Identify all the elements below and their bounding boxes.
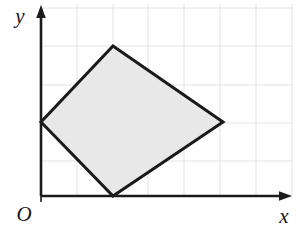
y-axis-label: y	[13, 4, 25, 28]
quadrilateral-shape	[41, 46, 223, 196]
x-axis-arrow-icon	[279, 191, 292, 201]
origin-label: O	[16, 202, 31, 226]
figure-canvas: y x O	[0, 0, 296, 231]
coordinate-grid-figure: y x O	[0, 0, 296, 231]
y-axis-arrow-icon	[36, 5, 46, 18]
x-axis-label: x	[278, 204, 289, 228]
